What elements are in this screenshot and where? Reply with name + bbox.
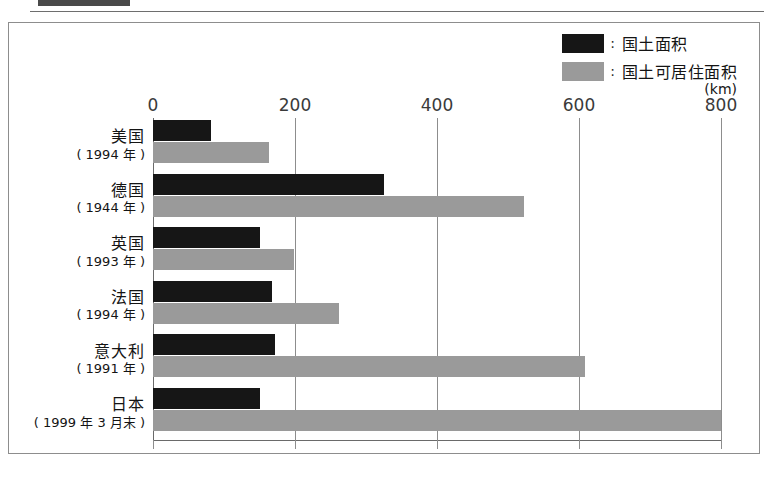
category-year: ( 1993 年 ): [76, 254, 145, 270]
bar-row: [153, 118, 721, 172]
category-year: ( 1994 年 ): [76, 307, 145, 323]
bar-habitable-area: [153, 410, 721, 431]
category-name: 德国: [111, 181, 145, 201]
bar-row: [153, 386, 721, 440]
bar-land-area: [153, 174, 384, 195]
category-name: 日本: [111, 395, 145, 415]
x-axis-tick-labels: 0200400600800: [153, 95, 721, 117]
chart-figure: : 国土面积 : 国土可居住面积 (km) 0200400600800 美国( …: [8, 22, 760, 454]
category-name: 法国: [111, 288, 145, 308]
category-label-1: 美国( 1994 年 ): [9, 118, 145, 172]
bar-row: [153, 332, 721, 386]
bar-habitable-area: [153, 356, 585, 377]
category-name: 美国: [111, 127, 145, 147]
category-year: ( 1994 年 ): [76, 147, 145, 163]
category-label-2: 德国( 1944 年 ): [9, 172, 145, 226]
tickmark-0: [153, 440, 154, 449]
legend-item-land-area: : 国土面积: [562, 33, 738, 53]
category-label-3: 英国( 1993 年 ): [9, 225, 145, 279]
legend-swatch-land-area: [562, 34, 604, 53]
category-year: ( 1999 年 3 月末 ): [34, 415, 145, 431]
bar-land-area: [153, 388, 260, 409]
category-label-4: 法国( 1994 年 ): [9, 279, 145, 333]
bar-land-area: [153, 334, 275, 355]
chart-legend: : 国土面积 : 国土可居住面积: [562, 33, 738, 81]
bar-land-area: [153, 227, 260, 248]
tickmark-600: [579, 440, 580, 449]
bar-habitable-area: [153, 303, 339, 324]
bar-land-area: [153, 120, 211, 141]
page-corner-mark: [38, 0, 130, 6]
header-rule: [30, 11, 764, 12]
x-tick-label-0: 0: [148, 95, 159, 115]
category-year: ( 1944 年 ): [76, 200, 145, 216]
x-tick-label-400: 400: [421, 95, 453, 115]
bar-row: [153, 279, 721, 333]
x-tick-label-200: 200: [279, 95, 311, 115]
x-tick-label-800: 800: [705, 95, 737, 115]
x-tick-label-600: 600: [563, 95, 595, 115]
bar-row: [153, 225, 721, 279]
bar-habitable-area: [153, 142, 269, 163]
category-label-5: 意大利( 1991 年 ): [9, 332, 145, 386]
category-name: 意大利: [94, 342, 145, 362]
tickmark-200: [295, 440, 296, 449]
tickmark-400: [437, 440, 438, 449]
bar-land-area: [153, 281, 272, 302]
category-name: 英国: [111, 234, 145, 254]
category-label-6: 日本( 1999 年 3 月末 ): [9, 386, 145, 440]
bar-rows: [153, 118, 721, 440]
category-axis-labels: 美国( 1994 年 )德国( 1944 年 )英国( 1993 年 )法国( …: [9, 118, 153, 440]
bar-habitable-area: [153, 196, 524, 217]
bar-row: [153, 172, 721, 226]
plot-area: [153, 118, 721, 440]
tickmark-800: [721, 440, 722, 449]
bar-habitable-area: [153, 249, 294, 270]
legend-swatch-habitable-area: [562, 62, 604, 81]
category-year: ( 1991 年 ): [76, 361, 145, 377]
gridline-800: [721, 118, 722, 440]
legend-separator: :: [604, 35, 622, 51]
legend-label-habitable-area: 国土可居住面积: [622, 59, 738, 83]
legend-item-habitable-area: : 国土可居住面积: [562, 61, 738, 81]
legend-separator: :: [604, 63, 622, 79]
legend-label-land-area: 国土面积: [622, 31, 688, 55]
